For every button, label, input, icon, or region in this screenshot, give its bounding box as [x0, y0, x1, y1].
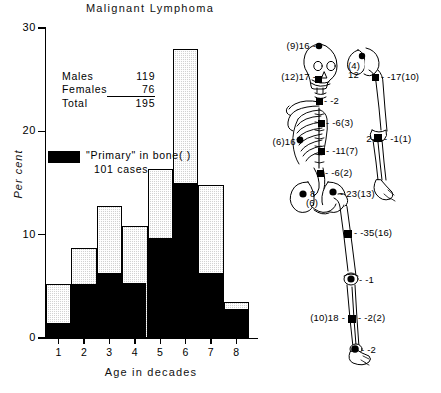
x-tick-label-3: 3 [99, 346, 119, 358]
stats-row-males: Males119 [62, 70, 155, 83]
stats-value: 195 [107, 97, 155, 111]
y-tick-10 [38, 234, 46, 235]
stats-value: 119 [107, 70, 155, 83]
bar-primary-bone-decade-2 [72, 284, 95, 338]
y-tick-0 [38, 337, 46, 338]
x-tick-label-4: 4 [125, 346, 145, 358]
skeleton-diagram: (9)16 -(12)17 -(4)12- -17(10)- -2- -6(3)… [262, 22, 441, 372]
skeleton-label-tibia-left: (10)18 - [263, 312, 345, 323]
skeleton-label-thoracic-spine: - -6(3) [326, 117, 353, 128]
x-axis-line [45, 338, 258, 339]
skeleton-label-femur-shaft: - -35(16) [354, 227, 392, 238]
skeleton-label-tibia-right: - -2(2) [358, 312, 385, 323]
y-tick-20 [38, 131, 46, 132]
x-tick-2 [83, 339, 84, 344]
x-tick-6 [185, 339, 186, 344]
skeleton-label-sacrum: - -6(2) [325, 167, 352, 178]
legend-label-primary-bone: "Primary" in bone( ) [86, 149, 191, 163]
skeleton-label-knee: - -1 [359, 274, 374, 285]
stats-label: Females [62, 83, 107, 97]
stats-row-total: Total195 [62, 97, 155, 111]
x-tick-1 [58, 339, 59, 344]
x-axis-title: Age in decades [40, 366, 262, 378]
y-tick-30 [38, 27, 46, 28]
skeleton-label-humerus-proximal: - -17(10) [381, 71, 419, 82]
skeleton-label-elbow-left: 2- [355, 133, 375, 144]
x-tick-label-6: 6 [176, 346, 196, 358]
x-tick-8 [236, 339, 237, 344]
y-tick-label-0: 0 [0, 331, 36, 343]
skeleton-label-radius-ulna: - -1(1) [384, 133, 411, 144]
skeleton-label-scapula-second: 12 [348, 69, 359, 80]
bar-primary-bone-decade-5 [149, 238, 172, 338]
x-tick-label-1: 1 [49, 346, 69, 358]
skeleton-label-femur-head: - 23(13) [340, 188, 375, 199]
x-tick-5 [160, 339, 161, 344]
bar-primary-bone-decade-3 [98, 273, 121, 338]
stats-label: Total [62, 97, 107, 111]
y-tick-label-10: 10 [0, 228, 36, 240]
skeleton-label-skull-jaw: (12)17 - [262, 71, 316, 82]
bar-primary-bone-decade-6 [174, 183, 197, 338]
figure-malignant-lymphoma: Malignant Lymphoma 0102030 12345678 Per … [0, 0, 441, 393]
legend-label-cases: 101 cases [94, 163, 148, 175]
x-tick-label-7: 7 [201, 346, 221, 358]
stats-label: Males [62, 70, 107, 83]
x-tick-3 [109, 339, 110, 344]
skeleton-label-foot: - -2 [361, 344, 376, 355]
bar-primary-bone-decade-8 [225, 309, 248, 338]
summary-statistics: Males119Females76Total195 [62, 70, 155, 110]
bar-chart: 0102030 12345678 Per cent Age in decades… [0, 18, 280, 368]
legend-swatch-primary-bone [48, 151, 80, 163]
bar-primary-bone-decade-4 [123, 283, 146, 338]
skeleton-label-ilium-left-paren: (6) [306, 197, 318, 208]
skeleton-label-cervical-spine: - -2 [324, 95, 339, 106]
bar-primary-bone-decade-1 [47, 323, 70, 339]
bar-primary-bone-decade-7 [199, 273, 222, 338]
y-tick-label-30: 30 [0, 21, 36, 33]
skeleton-label-ribs-left: (6)16 - [262, 136, 302, 147]
skeleton-label-lumbar-spine: - -11(7) [326, 145, 358, 156]
y-axis-title: Per cent [12, 134, 24, 214]
x-tick-label-8: 8 [226, 346, 246, 358]
x-tick-4 [134, 339, 135, 344]
stats-table: Males119Females76Total195 [62, 70, 155, 110]
figure-title: Malignant Lymphoma [0, 2, 300, 14]
x-tick-label-2: 2 [74, 346, 94, 358]
stats-row-females: Females76 [62, 83, 155, 97]
x-tick-7 [210, 339, 211, 344]
stats-value: 76 [107, 83, 155, 97]
skeleton-label-skull-top: (9)16 - [264, 40, 316, 51]
x-tick-label-5: 5 [150, 346, 170, 358]
